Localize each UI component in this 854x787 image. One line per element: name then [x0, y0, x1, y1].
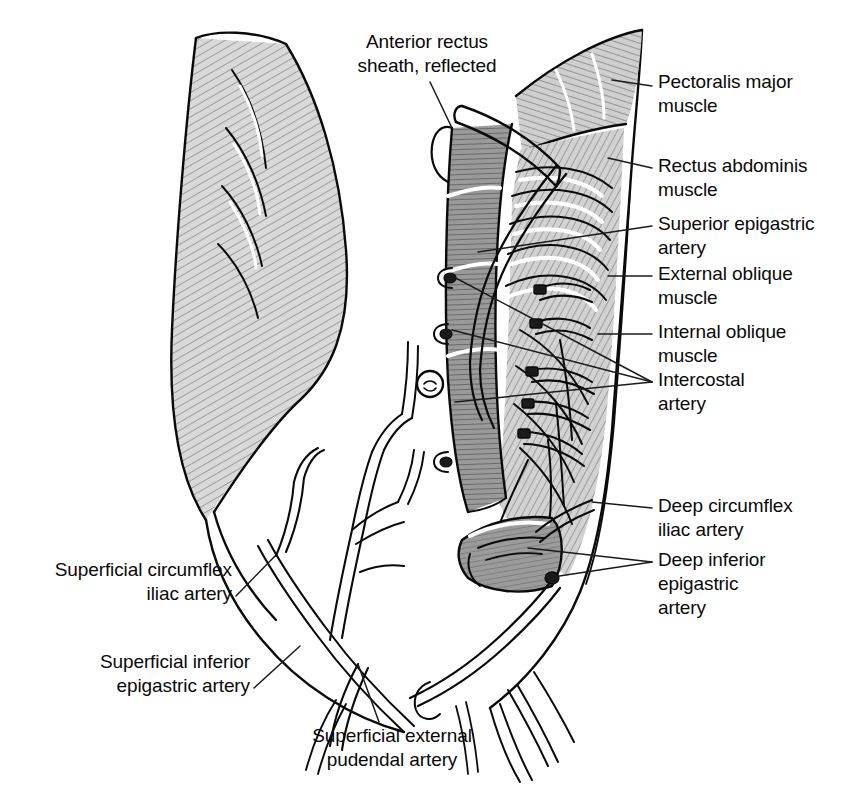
- left-torso-flap: [150, 20, 404, 732]
- deep-inferior-epigastric-artery-vessel: [410, 572, 560, 706]
- label-deep-circumflex-iliac-artery: Deep circumflex iliac artery: [658, 494, 854, 542]
- label-superficial-external-pudendal-artery: Superficial external pudendal artery: [272, 724, 512, 772]
- label-superior-epigastric-artery: Superior epigastric artery: [658, 212, 854, 260]
- label-pectoralis-major: Pectoralis major muscle: [658, 70, 854, 118]
- label-intercostal-artery: Intercostal artery: [658, 368, 854, 416]
- label-anterior-rectus-sheath: Anterior rectus sheath, reflected: [307, 30, 547, 78]
- label-rectus-abdominis: Rectus abdominis muscle: [658, 154, 854, 202]
- anatomy-figure: Anterior rectus sheath, reflected Pector…: [0, 0, 854, 787]
- label-superficial-inferior-epigastric-artery: Superficial inferior epigastric artery: [58, 650, 250, 698]
- label-deep-inferior-epigastric-artery: Deep inferior epigastric artery: [658, 548, 854, 620]
- label-internal-oblique: Internal oblique muscle: [658, 320, 854, 368]
- label-external-oblique: External oblique muscle: [658, 262, 854, 310]
- label-superficial-circumflex-iliac-artery: Superficial circumflex iliac artery: [8, 558, 232, 606]
